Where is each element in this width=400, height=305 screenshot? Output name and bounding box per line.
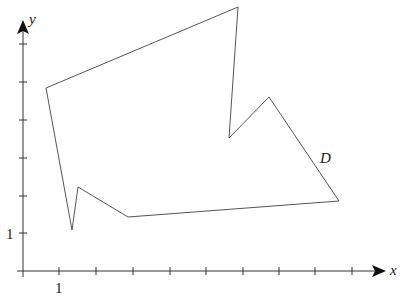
y-tick-label-1: 1 — [6, 226, 14, 242]
region-d-polygon — [46, 7, 339, 230]
region-label-d: D — [319, 150, 331, 166]
x-axis — [17, 265, 386, 277]
y-axis-label: y — [27, 11, 36, 27]
y-axis — [17, 20, 29, 277]
x-tick-label-1: 1 — [55, 280, 63, 296]
region-diagram: y x 1 1 D — [0, 0, 400, 305]
x-axis-label: x — [389, 262, 397, 278]
